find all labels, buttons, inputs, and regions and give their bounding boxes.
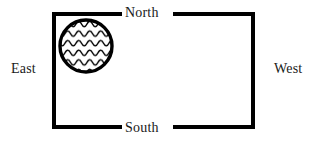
label-south: South [125, 120, 159, 136]
compass-diagram: North South East West [0, 0, 317, 143]
hatched-circle [58, 18, 116, 76]
label-north: North [125, 5, 159, 21]
label-east: East [11, 61, 36, 77]
label-west: West [274, 61, 302, 77]
